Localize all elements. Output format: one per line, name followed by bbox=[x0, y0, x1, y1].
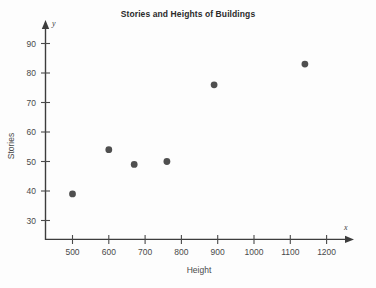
x-tick-label: 1000 bbox=[245, 247, 264, 257]
x-tick-800: 800 bbox=[174, 235, 188, 257]
y-tick-40: 40 bbox=[27, 186, 50, 196]
y-tick-90: 90 bbox=[27, 39, 50, 49]
y-axis-arrowhead bbox=[42, 20, 49, 29]
y-tick-label: 50 bbox=[27, 157, 37, 167]
y-tick-60: 60 bbox=[27, 127, 50, 137]
y-tick-70: 70 bbox=[27, 98, 50, 108]
y-tick-label: 40 bbox=[27, 186, 37, 196]
x-tick-700: 700 bbox=[138, 235, 152, 257]
y-tick-label: 90 bbox=[27, 39, 37, 49]
y-tick-label: 70 bbox=[27, 98, 37, 108]
data-point[interactable] bbox=[105, 146, 112, 153]
x-tick-1100: 1100 bbox=[281, 235, 300, 257]
x-tick-900: 900 bbox=[211, 235, 225, 257]
x-tick-label: 1200 bbox=[317, 247, 336, 257]
plot-area: y x 90 80 70 60 bbox=[0, 0, 376, 288]
x-tick-label: 1100 bbox=[281, 247, 300, 257]
data-point[interactable] bbox=[131, 161, 138, 168]
x-tick-group: 500 600 700 800 900 1000 bbox=[65, 235, 336, 257]
x-tick-label: 800 bbox=[174, 247, 188, 257]
y-tick-label: 30 bbox=[27, 216, 37, 226]
y-tick-80: 80 bbox=[27, 68, 50, 78]
x-tick-600: 600 bbox=[102, 235, 116, 257]
y-axis: y bbox=[42, 19, 56, 240]
y-tick-label: 80 bbox=[27, 68, 37, 78]
x-tick-500: 500 bbox=[65, 235, 79, 257]
y-axis-variable-label: y bbox=[51, 19, 56, 28]
x-tick-label: 700 bbox=[138, 247, 152, 257]
y-tick-50: 50 bbox=[27, 157, 50, 167]
scatter-plot-figure: Stories and Heights of Buildings y x 90 … bbox=[0, 0, 376, 288]
x-tick-label: 600 bbox=[102, 247, 116, 257]
x-axis-arrowhead bbox=[345, 236, 354, 243]
y-tick-label: 60 bbox=[27, 127, 37, 137]
x-tick-label: 500 bbox=[65, 247, 79, 257]
y-axis-title: Stories bbox=[6, 133, 16, 159]
x-axis-variable-label: x bbox=[343, 223, 348, 232]
data-point[interactable] bbox=[302, 61, 309, 68]
data-point[interactable] bbox=[211, 81, 218, 88]
y-tick-group: 90 80 70 60 50 40 bbox=[27, 39, 50, 226]
x-axis: x bbox=[46, 223, 355, 243]
data-point[interactable] bbox=[164, 158, 171, 165]
x-tick-1200: 1200 bbox=[317, 235, 336, 257]
y-tick-30: 30 bbox=[27, 216, 50, 226]
x-tick-1000: 1000 bbox=[245, 235, 264, 257]
data-point[interactable] bbox=[69, 191, 76, 198]
x-axis-title: Height bbox=[187, 265, 212, 275]
x-tick-label: 900 bbox=[211, 247, 225, 257]
data-point-group bbox=[69, 61, 308, 198]
